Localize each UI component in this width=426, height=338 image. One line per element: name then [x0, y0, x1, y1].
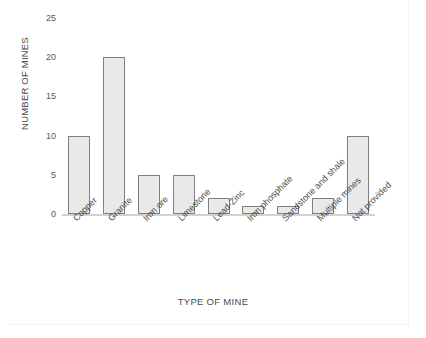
x-axis-title: TYPE OF MINE: [0, 296, 426, 307]
y-tick-label: 0: [32, 210, 56, 219]
y-tick-label: 5: [32, 171, 56, 180]
y-axis-title: NUMBER OF MINES: [19, 24, 30, 144]
bar-chart-figure: 0510152025 NUMBER OF MINES CopperGranite…: [0, 0, 426, 338]
x-axis-tick-labels: CopperGraniteIron oreLimestoneLead-ZincI…: [62, 216, 382, 294]
y-axis-tick-labels: 0510152025: [32, 18, 56, 214]
scan-border-bottom: [8, 324, 408, 325]
y-tick-label: 10: [32, 132, 56, 141]
scan-border-right: [408, 0, 409, 326]
y-tick-label: 15: [32, 92, 56, 101]
bar: [103, 57, 125, 214]
y-tick-label: 25: [32, 14, 56, 23]
y-tick-label: 20: [32, 53, 56, 62]
plot-area: [62, 18, 375, 214]
